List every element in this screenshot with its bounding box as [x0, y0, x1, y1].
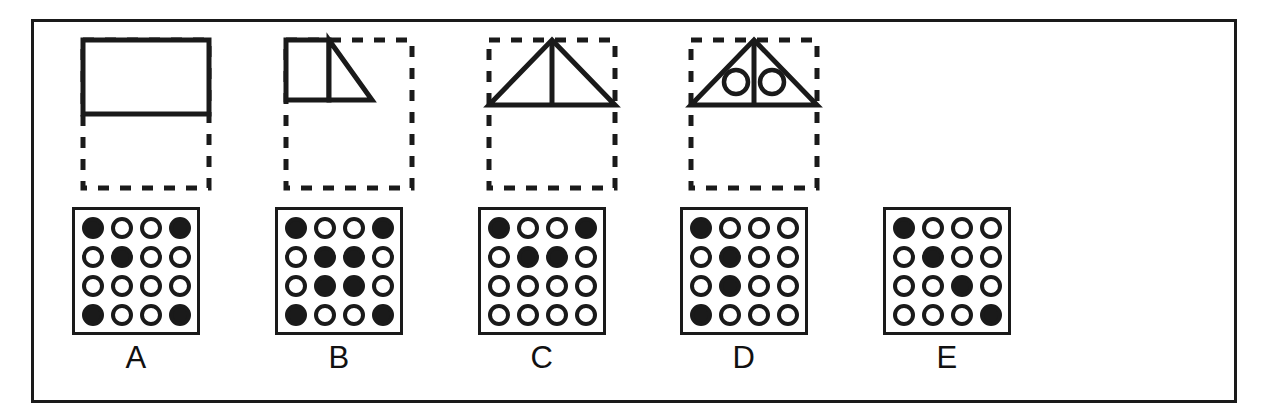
empty-dot-icon: [690, 275, 712, 297]
empty-dot-icon: [777, 217, 799, 239]
dot-grid-b[interactable]: [275, 207, 403, 335]
filled-dot-icon: [951, 275, 973, 297]
dot-cell: [947, 242, 976, 271]
option-c[interactable]: C: [444, 22, 640, 400]
dot-cell: [107, 271, 136, 300]
dot-grid-a[interactable]: [72, 207, 200, 335]
dot-cell: [78, 300, 107, 329]
dot-cell: [165, 300, 194, 329]
empty-dot-icon: [777, 246, 799, 268]
dot-cell: [368, 300, 397, 329]
empty-dot-icon: [575, 275, 597, 297]
option-b[interactable]: B: [241, 22, 437, 400]
filled-dot-icon: [82, 217, 104, 239]
empty-dot-icon: [980, 275, 1002, 297]
dot-cell: [571, 242, 600, 271]
empty-dot-icon: [777, 275, 799, 297]
empty-dot-icon: [546, 217, 568, 239]
dot-cell: [513, 213, 542, 242]
dot-cell: [368, 271, 397, 300]
filled-dot-icon: [488, 217, 510, 239]
dot-grid-c[interactable]: [478, 207, 606, 335]
dot-cell: [571, 300, 600, 329]
filled-dot-icon: [690, 304, 712, 326]
filled-dot-icon: [893, 217, 915, 239]
empty-dot-icon: [488, 304, 510, 326]
filled-dot-icon: [314, 246, 336, 268]
dot-cell: [947, 271, 976, 300]
dot-grid-d[interactable]: [680, 207, 808, 335]
solid-rectangle: [83, 40, 209, 114]
empty-dot-icon: [140, 275, 162, 297]
option-d-label: D: [646, 340, 842, 376]
empty-dot-icon: [748, 217, 770, 239]
empty-dot-icon: [314, 304, 336, 326]
empty-dot-icon: [111, 275, 133, 297]
dot-cell: [310, 213, 339, 242]
dot-cell: [918, 242, 947, 271]
empty-dot-icon: [343, 304, 365, 326]
dot-cell: [78, 242, 107, 271]
empty-dot-icon: [951, 217, 973, 239]
dot-cell: [715, 213, 744, 242]
empty-dot-icon: [285, 275, 307, 297]
dot-cell: [976, 242, 1005, 271]
option-e-label: E: [849, 340, 1045, 376]
dot-cell: [165, 213, 194, 242]
dot-cell: [686, 213, 715, 242]
empty-dot-icon: [575, 246, 597, 268]
dot-cell: [976, 271, 1005, 300]
filled-dot-icon: [719, 275, 741, 297]
option-a-label: A: [38, 340, 234, 376]
empty-dot-icon: [922, 304, 944, 326]
dot-grid-e[interactable]: [883, 207, 1011, 335]
dot-cell: [339, 271, 368, 300]
dot-cell: [165, 242, 194, 271]
dot-cell: [542, 213, 571, 242]
right-triangle: [329, 40, 372, 100]
dot-cell: [368, 242, 397, 271]
empty-dot-icon: [140, 304, 162, 326]
option-a-figure: [38, 26, 234, 196]
dot-cell: [889, 271, 918, 300]
option-b-figure: [241, 26, 437, 196]
empty-dot-icon: [140, 246, 162, 268]
option-a[interactable]: A: [38, 22, 234, 400]
filled-dot-icon: [169, 217, 191, 239]
empty-dot-icon: [951, 304, 973, 326]
dot-cell: [339, 300, 368, 329]
dot-cell: [136, 300, 165, 329]
option-e[interactable]: E: [849, 22, 1045, 400]
empty-dot-icon: [719, 217, 741, 239]
dot-cell: [744, 242, 773, 271]
empty-dot-icon: [372, 246, 394, 268]
option-d[interactable]: D: [646, 22, 842, 400]
dot-cell: [744, 271, 773, 300]
filled-dot-icon: [980, 304, 1002, 326]
dot-cell: [773, 300, 802, 329]
option-c-figure: [444, 26, 640, 196]
dot-cell: [484, 242, 513, 271]
empty-dot-icon: [372, 275, 394, 297]
dot-cell: [686, 242, 715, 271]
dot-cell: [744, 300, 773, 329]
dot-cell: [889, 242, 918, 271]
filled-dot-icon: [343, 275, 365, 297]
empty-dot-icon: [488, 246, 510, 268]
dot-cell: [339, 242, 368, 271]
option-e-figure: [849, 26, 1045, 196]
filled-dot-icon: [169, 304, 191, 326]
empty-dot-icon: [111, 304, 133, 326]
dot-cell: [976, 300, 1005, 329]
empty-dot-icon: [314, 217, 336, 239]
left-circle: [724, 70, 748, 94]
dot-cell: [310, 271, 339, 300]
empty-dot-icon: [169, 246, 191, 268]
option-b-grid-wrap: [241, 207, 437, 337]
dot-cell: [339, 213, 368, 242]
empty-dot-icon: [980, 246, 1002, 268]
option-a-grid-wrap: [38, 207, 234, 337]
dot-cell: [136, 213, 165, 242]
filled-dot-icon: [517, 246, 539, 268]
empty-dot-icon: [111, 217, 133, 239]
